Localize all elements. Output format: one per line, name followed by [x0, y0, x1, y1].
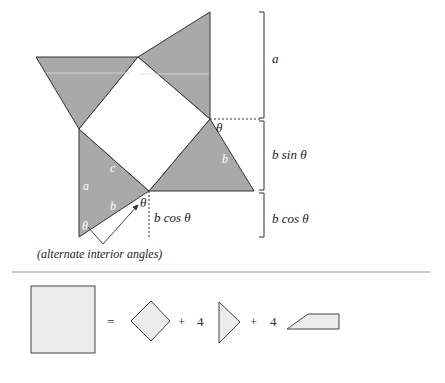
pythagorean-dissection-figure: a b sin θ b cos θ θ θ θ a c b b b cos θ … [0, 0, 445, 383]
angle-theta-mid: θ [140, 195, 147, 210]
diamond-piece [131, 301, 170, 341]
triangle-piece [219, 302, 240, 343]
label-bcos: b cos θ [272, 211, 309, 226]
side-label-c: c [110, 161, 116, 175]
angle-theta-right: θ [216, 120, 223, 135]
label-bsin: b sin θ [272, 147, 307, 162]
bracket-bsin [259, 121, 264, 190]
plus-sign-2: + [250, 314, 257, 329]
annotation-text: (alternate interior angles) [37, 247, 162, 261]
bracket-bcos [259, 193, 264, 237]
count-1: 4 [197, 314, 204, 329]
side-label-a: a [83, 179, 89, 193]
side-label-b-left: b [110, 199, 116, 213]
side-label-b-right: b [222, 152, 228, 166]
label-dotted-bcos: b cos θ [154, 210, 191, 225]
label-a: a [272, 51, 279, 66]
count-2: 4 [270, 314, 277, 329]
equals-sign: = [107, 314, 114, 329]
plus-sign-1: + [178, 314, 185, 329]
angle-theta-bottom: θ [82, 219, 88, 233]
big-square [31, 286, 95, 353]
bracket-a [259, 12, 264, 118]
trapezoid-piece [287, 314, 339, 329]
